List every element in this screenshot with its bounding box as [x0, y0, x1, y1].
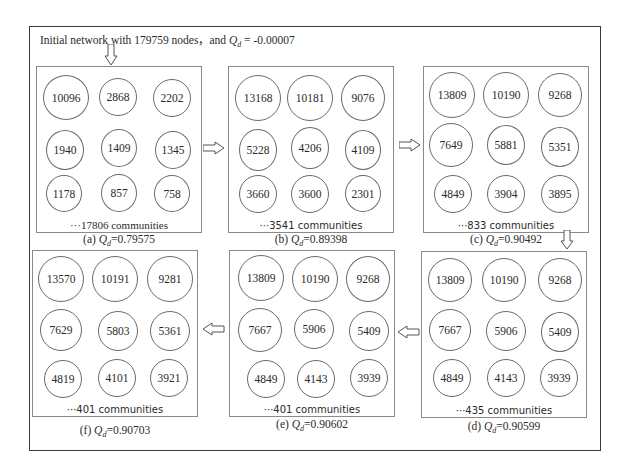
community-node: 2868	[99, 78, 137, 116]
community-node: 758	[154, 175, 190, 212]
q-value: =0.90602	[304, 418, 348, 430]
caption-label: (e)	[276, 418, 292, 430]
community-node: 5409	[349, 311, 389, 351]
community-node: 3939	[540, 359, 578, 397]
community-node: 3895	[541, 175, 579, 213]
panel-c: 13809 10190 9268 7649 5881 5351 4849 390…	[423, 66, 589, 233]
community-node: 10096	[43, 75, 89, 120]
community-node: 4109	[345, 130, 381, 170]
community-count: ···401 communities	[230, 404, 394, 415]
panel-e: 13809 10190 9268 7667 5906 5409 4849 414…	[229, 250, 395, 417]
panel-a: 10096 2868 2202 1940 1409 1345 1178 857 …	[36, 66, 202, 233]
arrow-left-icon	[398, 325, 420, 339]
community-node: 5351	[541, 127, 579, 167]
community-node: 10190	[292, 256, 338, 302]
panel-f: 13570 10191 9281 7629 5803 5361 4819 410…	[32, 250, 198, 417]
caption-f: (f) Qd=0.90703	[32, 424, 198, 439]
title-text: Initial network with 179759 nodes，and	[40, 34, 229, 46]
q-symbol: Q	[292, 418, 300, 430]
community-node: 9281	[147, 256, 193, 302]
community-node: 4849	[247, 360, 285, 398]
q-value: =0.89398	[303, 233, 347, 245]
caption-d: (d) Qd=0.90599	[421, 420, 587, 435]
community-node: 9268	[538, 258, 582, 302]
community-node: 5409	[541, 312, 579, 352]
panel-b: 13168 10181 9076 5228 4206 4109 3660 360…	[228, 66, 394, 233]
community-node: 4849	[434, 175, 472, 213]
caption-a: (a) Qd=0.79575	[36, 233, 202, 248]
caption-label: (c)	[470, 233, 486, 245]
community-node: 13168	[235, 75, 281, 121]
community-count: ···401 communities	[33, 404, 197, 415]
community-node: 5228	[239, 129, 277, 171]
community-node: 5906	[486, 311, 526, 351]
community-node: 5906	[294, 309, 334, 349]
community-node: 13570	[38, 256, 84, 302]
community-node: 4143	[487, 359, 525, 397]
caption-label: (d)	[468, 420, 484, 432]
q-symbol: Q	[99, 233, 107, 245]
community-node: 10190	[483, 72, 529, 118]
community-node: 10190	[482, 258, 526, 302]
arrow-down-icon	[104, 44, 118, 66]
community-node: 13809	[429, 72, 475, 118]
community-node: 7667	[429, 309, 471, 351]
community-node: 3600	[291, 175, 329, 213]
q-value: =0.90492	[498, 233, 542, 245]
figure-title: Initial network with 179759 nodes，and Qd…	[40, 31, 295, 49]
community-node: 857	[101, 174, 137, 212]
community-node: 9076	[341, 75, 385, 121]
community-node: 5803	[98, 311, 138, 351]
community-node: 9268	[346, 256, 390, 302]
community-node: 4101	[98, 359, 136, 397]
community-count: ···435 communities	[422, 405, 586, 416]
arrow-left-icon	[203, 322, 225, 336]
community-node: 3904	[487, 175, 525, 213]
caption-b: (b) Qd=0.89398	[228, 233, 394, 248]
title-q-value: = -0.00007	[241, 34, 294, 46]
community-count: ···3541 communities	[229, 220, 393, 231]
caption-label: (a)	[83, 233, 99, 245]
community-node: 2202	[153, 79, 191, 117]
community-node: 10181	[287, 75, 333, 121]
community-node: 10191	[92, 256, 138, 302]
community-node: 7649	[429, 123, 473, 167]
community-node: 1345	[155, 131, 191, 169]
community-node: 4143	[297, 360, 335, 398]
title-q-symbol: Q	[229, 34, 237, 46]
q-value: =0.90703	[106, 424, 150, 436]
arrow-down-icon	[560, 230, 574, 250]
community-count: ···17806 communities	[37, 219, 201, 231]
q-value: =0.90599	[496, 420, 540, 432]
caption-e: (e) Qd=0.90602	[229, 418, 395, 433]
caption-label: (f)	[80, 424, 94, 436]
community-node: 1178	[46, 175, 82, 212]
community-node: 5361	[150, 311, 190, 351]
community-node: 3921	[150, 359, 188, 397]
community-node: 13809	[238, 255, 284, 301]
community-node: 4819	[44, 360, 82, 398]
community-node: 1940	[46, 130, 84, 170]
community-node: 13809	[428, 258, 472, 302]
community-node: 3660	[239, 175, 277, 213]
community-node: 4206	[291, 127, 329, 169]
arrow-right-icon	[203, 141, 225, 155]
community-node: 4849	[433, 359, 471, 397]
community-node: 3939	[350, 359, 388, 397]
community-node: 7667	[238, 308, 282, 352]
arrow-right-icon	[399, 138, 421, 152]
panel-d: 13809 10190 9268 7667 5906 5409 4849 414…	[421, 251, 587, 418]
community-node: 9268	[538, 73, 582, 117]
community-node: 2301	[345, 175, 381, 212]
community-node: 7629	[40, 309, 82, 351]
community-node: 1409	[101, 129, 137, 167]
caption-label: (b)	[275, 233, 291, 245]
q-symbol: Q	[486, 233, 494, 245]
community-node: 5881	[487, 125, 525, 165]
q-value: =0.79575	[111, 233, 155, 245]
